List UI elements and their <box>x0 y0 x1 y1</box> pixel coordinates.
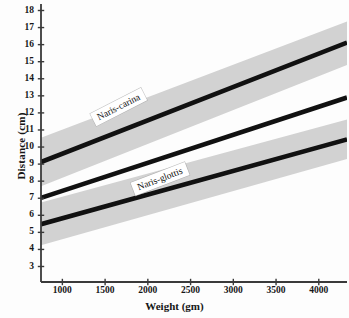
x-tick-label: 1500 <box>83 285 127 295</box>
y-tick-label: 6 <box>12 209 34 219</box>
x-tick-label: 2000 <box>126 285 170 295</box>
y-tick-label: 17 <box>12 22 34 32</box>
x-tick-label: 2500 <box>169 285 213 295</box>
x-tick-label: 1000 <box>40 285 84 295</box>
y-tick-label: 15 <box>12 56 34 66</box>
y-tick-label: 14 <box>12 73 34 83</box>
chart-plot-area <box>0 0 349 318</box>
x-tick-label: 3000 <box>211 285 255 295</box>
y-axis-title: Distance (cm) <box>15 86 27 206</box>
y-tick-label: 3 <box>12 261 34 271</box>
y-tick-label: 16 <box>12 39 34 49</box>
x-tick-label: 3500 <box>254 285 298 295</box>
x-axis-title: Weight (gm) <box>0 300 349 312</box>
x-tick-label: 4000 <box>297 285 341 295</box>
y-tick-label: 5 <box>12 226 34 236</box>
chart-figure: 3456789101112131415161718 10001500200025… <box>0 0 349 318</box>
y-tick-label: 4 <box>12 243 34 253</box>
y-tick-label: 18 <box>12 5 34 15</box>
